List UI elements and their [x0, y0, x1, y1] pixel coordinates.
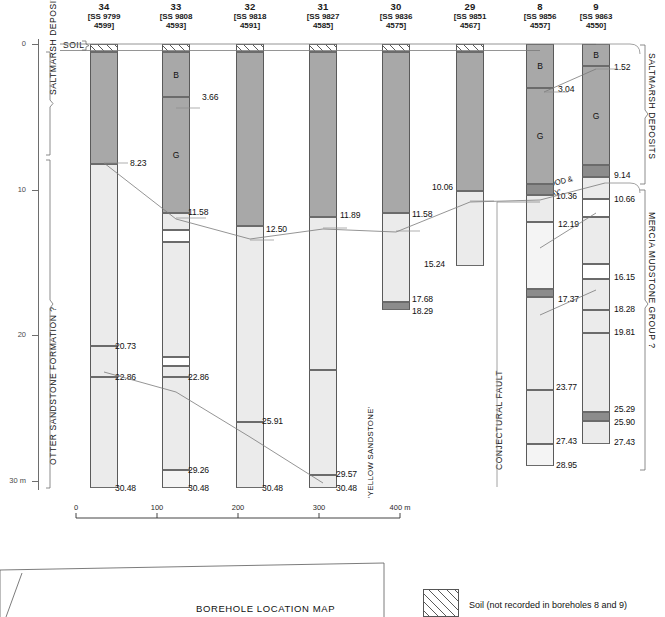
depth-value-12-50-9: 12.50 [266, 224, 287, 234]
layer-segment-31-3 [309, 370, 337, 474]
depth-value-15-24-19: 15.24 [424, 259, 445, 269]
layer-code-33-G: G [163, 150, 189, 160]
layer-segment-33-4 [162, 230, 190, 242]
layer-segment-8-4 [526, 222, 554, 289]
right-label-saltmarsh-deposits: SALTMARSH DEPOSITS [647, 53, 657, 160]
depth-value-30-48-3: 30.48 [115, 483, 136, 493]
layer-segment-9-8 [582, 310, 610, 332]
depth-value-12-19-22: 12.19 [558, 219, 579, 229]
layer-segment-30-2 [382, 213, 410, 302]
layer-segment-31-1 [309, 52, 337, 217]
borehole-column-29[interactable] [456, 44, 484, 266]
layer-segment-33-1: B [162, 52, 190, 97]
soil-label: SOIL [63, 40, 84, 50]
layer-segment-9-3 [582, 177, 610, 199]
layer-segment-8-8 [526, 444, 554, 466]
depth-value-18-28-31: 18.28 [614, 304, 635, 314]
layer-segment-33-2: G [162, 97, 190, 212]
layer-segment-33-7 [162, 366, 190, 377]
scale-tick-label-0: 0 [56, 503, 96, 512]
depth-value-25-29-33: 25.29 [614, 404, 635, 414]
mid-right-enclosure [605, 183, 640, 193]
depth-value-22-86-6: 22.86 [188, 372, 209, 382]
layer-segment-31-4 [309, 475, 337, 488]
layer-code-33-B: B [163, 70, 189, 80]
layer-segment-29-0 [456, 44, 484, 52]
depth-value-20-73-1: 20.73 [115, 341, 136, 351]
layer-segment-29-2 [456, 191, 484, 266]
soil-legend-swatch [423, 589, 459, 617]
borehole-column-31[interactable] [309, 44, 337, 488]
layer-segment-30-0 [382, 44, 410, 52]
depth-value-3-04-20: 3.04 [558, 84, 574, 94]
layer-segment-33-0 [162, 44, 190, 52]
depth-value-11-58-15: 11.58 [412, 209, 432, 219]
depth-value-25-91-10: 25.91 [262, 416, 283, 426]
layer-segment-31-2 [309, 217, 337, 370]
layer-segment-9-5 [582, 217, 610, 264]
left-label-otter-sandstone: OTTER SANDSTONE FORMATION ? [48, 306, 58, 465]
depth-value-30-48-11: 30.48 [262, 483, 283, 493]
depth-tick-30 [32, 481, 38, 482]
borehole-column-32[interactable] [236, 44, 264, 488]
right-label-mercia-mudstone: MERCIA MUDSTONE GROUP ? [647, 212, 657, 349]
layer-segment-33-5 [162, 242, 190, 357]
depth-value-1-52-27: 1.52 [614, 62, 630, 72]
layer-segment-8-2 [526, 184, 554, 195]
depth-value-30-48-14: 30.48 [336, 483, 357, 493]
depth-value-28-95-26: 28.95 [556, 460, 577, 470]
layer-code-8-B: B [527, 61, 553, 71]
layer-segment-8-3 [526, 195, 554, 222]
depth-tick-label-10: 10 [4, 185, 26, 194]
depth-axis-line [38, 39, 39, 490]
borehole-column-8[interactable]: BG [526, 44, 554, 466]
depth-value-27-43-35: 27.43 [614, 437, 635, 447]
depth-value-29-26-7: 29.26 [188, 465, 209, 475]
borehole-column-33[interactable]: BG [162, 44, 190, 488]
borehole-column-34[interactable] [90, 44, 118, 488]
layer-code-9-B: B [583, 50, 609, 60]
depth-value-25-90-34: 25.90 [614, 417, 635, 427]
layer-segment-34-3 [90, 346, 118, 377]
depth-value-19-81-32: 19.81 [614, 327, 635, 337]
layer-segment-8-1: G [526, 88, 554, 184]
layer-segment-33-3 [162, 213, 190, 231]
layer-segment-8-5 [526, 289, 554, 297]
layer-segment-30-1 [382, 52, 410, 213]
conjectural-fault-label: CONJECTURAL FAULT [494, 370, 504, 470]
layer-segment-34-4 [90, 377, 118, 488]
layer-segment-9-10 [582, 412, 610, 421]
layer-segment-9-7 [582, 279, 610, 310]
scale-tick-label-2: 200 [218, 503, 258, 512]
layer-segment-32-3 [236, 422, 264, 489]
layer-segment-33-6 [162, 357, 190, 366]
depth-value-17-37-23: 17.37 [558, 294, 579, 304]
layer-segment-8-6 [526, 297, 554, 390]
depth-value-10-06-18: 10.06 [432, 182, 453, 192]
left-label-saltmarsh-deposits: SALTMARSH DEPOSITS [48, 0, 58, 95]
borehole-column-30[interactable] [382, 44, 410, 310]
layer-segment-34-1 [90, 52, 118, 164]
layer-segment-30-3 [382, 302, 410, 311]
layer-code-8-G: G [527, 131, 553, 141]
depth-value-10-36-21: 10.36 [556, 191, 577, 201]
layer-segment-31-0 [309, 44, 337, 52]
depth-tick-label-0: 0 [4, 39, 26, 48]
borehole-cross-section-figure: 34[SS 97994599]33[SS 98084593]32[SS 9818… [0, 0, 665, 617]
depth-value-18-29-17: 18.29 [412, 306, 433, 316]
layer-segment-9-2 [582, 165, 610, 177]
scale-bar [76, 513, 400, 518]
scale-tick-label-4: 400 m [380, 503, 420, 512]
depth-tick-20 [32, 335, 38, 336]
layer-segment-9-0: B [582, 44, 610, 66]
depth-value-17-68-16: 17.68 [412, 294, 433, 304]
layer-segment-9-6 [582, 264, 610, 279]
depth-tick-label-20: 20 [4, 330, 26, 339]
layer-segment-32-1 [236, 52, 264, 226]
depth-value-10-66-29: 10.66 [614, 194, 635, 204]
depth-value-27-43-25: 27.43 [556, 436, 577, 446]
layer-segment-9-11 [582, 421, 610, 443]
depth-value-11-89-12: 11.89 [340, 210, 360, 220]
borehole-column-9[interactable]: BG [582, 44, 610, 444]
depth-value-11-58-5: 11.58 [188, 207, 208, 217]
